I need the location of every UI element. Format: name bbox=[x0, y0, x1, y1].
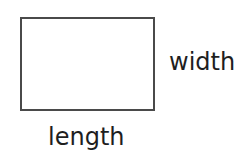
width-label: width bbox=[169, 50, 235, 74]
rectangle-dimension-diagram: width length bbox=[0, 0, 247, 161]
rectangle-shape bbox=[20, 17, 155, 111]
length-label: length bbox=[48, 125, 125, 149]
